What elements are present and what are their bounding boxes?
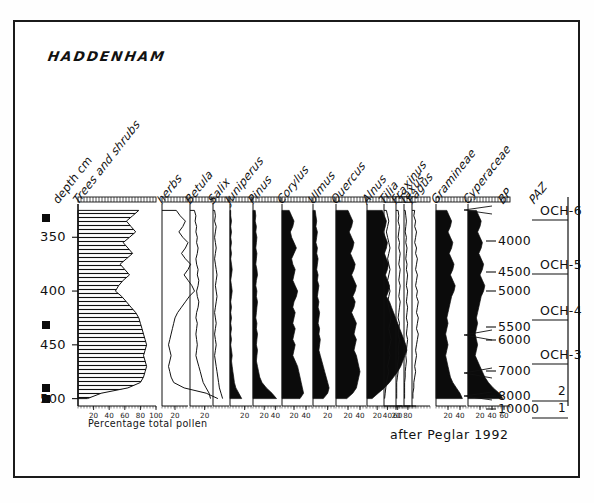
scale-tick-label: 20 [87, 411, 101, 420]
taxon-column-alnus [367, 197, 413, 410]
curve-Taxus [404, 210, 408, 398]
curve-Corylus [282, 210, 304, 398]
curve-Gramineae [436, 210, 462, 398]
bp-date-label: 4500 [498, 264, 531, 279]
curve-Salix [213, 210, 223, 398]
depth-tick-label: 500 [32, 391, 66, 406]
paz-zone-label: OCH-5 [540, 257, 582, 272]
curve-Fagus [412, 210, 418, 398]
sample-marker [42, 214, 50, 222]
pollen-diagram-figure: HADDENHAM after Peglar 1992 Percentage t… [0, 0, 594, 503]
taxon-column-betula [190, 197, 212, 410]
sample-marker [42, 321, 50, 329]
scale-tick-label: 60 [118, 411, 132, 420]
scale-tick-label: 40 [102, 411, 116, 420]
scale-tick-label: 40 [268, 411, 282, 420]
scale-tick-label: 20 [168, 411, 182, 420]
taxon-column-corylus [282, 197, 312, 410]
taxon-column-fraxinus [396, 197, 410, 409]
scale-tick-label: 20 [198, 411, 212, 420]
plot-area [0, 0, 594, 503]
scale-tick-label: 20 [321, 411, 335, 420]
paz-zone-label: OCH-4 [540, 303, 582, 318]
taxon-column-fagus [412, 197, 430, 409]
taxon-column-juniperus [230, 197, 252, 410]
curve-Trees and shrubs [78, 210, 147, 398]
paz-zone-label: 1 [558, 401, 566, 415]
bp-date-label: 7000 [498, 363, 531, 378]
scale-tick-label: 40 [353, 411, 367, 420]
taxon-column-taxus [404, 197, 416, 409]
taxon-column-ulmus [313, 197, 335, 410]
curve-Pinus [253, 210, 277, 398]
bp-date-label: 4000 [498, 233, 531, 248]
curve-Ulmus [313, 210, 329, 398]
curve-Quercus [336, 210, 360, 398]
depth-tick-label: 350 [32, 229, 66, 244]
curve-Betula [190, 210, 211, 398]
paz-zone-label: OCH-3 [540, 347, 582, 362]
depth-tick-label: 400 [32, 283, 66, 298]
paz-zone-label: 2 [558, 384, 566, 398]
taxon-column-gramineae [436, 197, 466, 410]
taxon-column-trees-and-shrubs [78, 197, 156, 410]
depth-tick-label: 450 [32, 337, 66, 352]
taxon-column-cyperaceae [468, 197, 510, 410]
bp-date-label: 6000 [498, 332, 531, 347]
paz-zone-label: OCH-6 [540, 203, 582, 218]
scale-tick-label: 100 [149, 411, 163, 420]
scale-tick-label: 20 [238, 411, 252, 420]
scale-tick-label: 20 [389, 411, 403, 420]
taxon-column-salix [213, 197, 229, 409]
bp-date-label: 10000 [498, 401, 539, 416]
scale-tick-label: 80 [133, 411, 147, 420]
scale-tick-label: 40 [453, 411, 467, 420]
scale-tick-label: 40 [299, 411, 313, 420]
taxon-column-pinus [253, 197, 281, 410]
taxon-column-quercus [336, 197, 366, 410]
bp-date-label: 5000 [498, 283, 531, 298]
curve-Alnus [367, 210, 407, 398]
curve-Juniperus [230, 210, 242, 398]
